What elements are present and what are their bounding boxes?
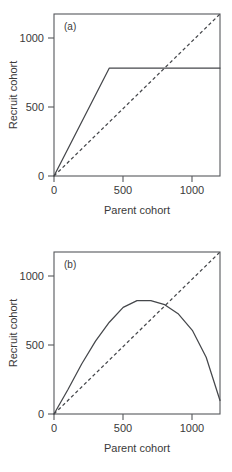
panel-b-y-axis-title: Recruit cohort [7, 299, 19, 367]
x-tick-label-500: 500 [114, 422, 132, 434]
x-tick-label-500: 500 [114, 184, 132, 196]
y-tick-label-500: 500 [26, 101, 44, 113]
panel-b-svg: 0 500 1000 0 500 1000 (b) Parent cohort … [0, 236, 232, 472]
x-tick-label-1000: 1000 [180, 422, 204, 434]
panel-b-x-axis-title: Parent cohort [104, 442, 170, 454]
x-tick-label-0: 0 [51, 422, 57, 434]
y-tick-label-500: 500 [26, 339, 44, 351]
chart-panel-b: 0 500 1000 0 500 1000 (b) Parent cohort … [0, 236, 232, 472]
panel-a-recruitment-curve [54, 68, 220, 176]
panel-a-y-axis-title: Recruit cohort [7, 61, 19, 129]
x-tick-label-0: 0 [51, 184, 57, 196]
panel-a-x-axis-title: Parent cohort [104, 204, 170, 216]
panel-a-label: (a) [64, 21, 76, 32]
y-tick-label-1000: 1000 [20, 270, 44, 282]
panel-b-label: (b) [64, 259, 76, 270]
x-tick-label-1000: 1000 [180, 184, 204, 196]
panel-b-y-ticks: 0 500 1000 [20, 270, 54, 420]
panel-b-x-ticks: 0 500 1000 [51, 414, 204, 434]
panel-a-x-ticks: 0 500 1000 [51, 176, 204, 196]
stock-recruitment-figure: 0 500 1000 0 500 1000 (a) Parent cohort … [0, 0, 232, 472]
y-tick-label-0: 0 [38, 170, 44, 182]
panel-a-replacement-line [54, 14, 220, 176]
panel-a-svg: 0 500 1000 0 500 1000 (a) Parent cohort … [0, 0, 232, 236]
y-tick-label-1000: 1000 [20, 32, 44, 44]
y-tick-label-0: 0 [38, 408, 44, 420]
panel-b-replacement-line [54, 252, 220, 414]
panel-b-recruitment-curve [54, 301, 220, 414]
panel-a-y-ticks: 0 500 1000 [20, 32, 54, 182]
chart-panel-a: 0 500 1000 0 500 1000 (a) Parent cohort … [0, 0, 232, 236]
